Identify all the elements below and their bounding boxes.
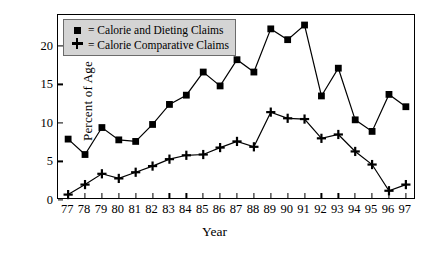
legend-item-calorie-dieting: = Calorie and Dieting Claims <box>69 22 229 37</box>
data-point-cross <box>148 161 157 170</box>
x-tick-label: 89 <box>264 202 277 217</box>
x-axis-title: Year <box>0 224 429 240</box>
plot-area: Percent of Age 05101520 = Calorie and Di… <box>57 14 415 199</box>
data-point-square <box>402 103 409 110</box>
x-tick-label: 79 <box>95 202 108 217</box>
y-tick-label: 10 <box>41 115 59 130</box>
chart-legend: = Calorie and Dieting Claims = Calorie C… <box>63 19 236 56</box>
data-point-cross <box>80 180 89 189</box>
data-point-square <box>149 121 156 128</box>
data-point-square <box>234 56 241 63</box>
data-point-square <box>82 151 89 158</box>
data-point-square <box>99 124 106 131</box>
clipped-caption <box>0 0 429 7</box>
y-tick-label: 20 <box>41 38 59 53</box>
legend-label: = Calorie Comparative Claims <box>85 39 229 51</box>
x-tick-label: 84 <box>179 202 192 217</box>
y-tick-label: 0 <box>47 193 58 208</box>
data-point-square <box>200 69 207 76</box>
data-point-square <box>369 128 376 135</box>
x-tick-label: 80 <box>112 202 125 217</box>
x-tick-label: 78 <box>78 202 91 217</box>
x-tick-label: 83 <box>162 202 175 217</box>
data-point-cross <box>249 142 258 151</box>
x-tick-label: 88 <box>247 202 260 217</box>
data-point-square <box>335 65 342 72</box>
data-point-square <box>386 91 393 98</box>
data-point-cross <box>114 174 123 183</box>
data-point-cross <box>97 169 106 178</box>
x-tick-label: 91 <box>297 202 310 217</box>
x-tick-label: 81 <box>128 202 141 217</box>
data-point-cross <box>64 190 73 199</box>
x-tick-label: 96 <box>382 202 395 217</box>
data-point-cross <box>384 186 393 195</box>
figure-canvas: Percent of Age 05101520 = Calorie and Di… <box>0 0 429 256</box>
legend-label: = Calorie and Dieting Claims <box>85 24 224 36</box>
filled-square-icon <box>69 24 85 36</box>
data-point-square <box>183 92 190 99</box>
data-point-cross <box>165 155 174 164</box>
legend-item-calorie-comparative: = Calorie Comparative Claims <box>69 37 229 52</box>
data-point-cross <box>131 168 140 177</box>
x-tick-label: 85 <box>196 202 209 217</box>
data-point-square <box>132 138 139 145</box>
data-point-cross <box>283 114 292 123</box>
x-tick-label: 90 <box>280 202 293 217</box>
data-point-square <box>115 136 122 143</box>
x-tick-label: 86 <box>213 202 226 217</box>
data-point-cross <box>232 137 241 146</box>
x-tick-label: 95 <box>365 202 378 217</box>
data-point-square <box>352 116 359 123</box>
data-point-square <box>284 36 291 43</box>
x-tick-label: 94 <box>348 202 361 217</box>
y-tick-label: 15 <box>41 77 59 92</box>
y-tick-label: 5 <box>47 154 58 169</box>
x-tick-label: 97 <box>399 202 412 217</box>
data-point-cross <box>266 108 275 117</box>
x-tick-label: 82 <box>145 202 158 217</box>
data-point-square <box>166 101 173 108</box>
x-tick-label: 87 <box>230 202 243 217</box>
data-point-cross <box>182 151 191 160</box>
plot-inner: Percent of Age 05101520 = Calorie and Di… <box>58 15 414 198</box>
data-point-square <box>217 83 224 90</box>
data-point-cross <box>216 143 225 152</box>
data-point-square <box>301 22 308 29</box>
data-point-cross <box>401 180 410 189</box>
data-point-square <box>250 69 257 76</box>
data-point-cross <box>199 150 208 159</box>
data-point-square <box>318 93 325 100</box>
data-point-square <box>65 136 72 143</box>
x-tick-label: 92 <box>314 202 327 217</box>
x-tick-label: 93 <box>331 202 344 217</box>
data-point-square <box>267 25 274 32</box>
x-tick-label: 77 <box>61 202 74 217</box>
plus-cross-icon <box>69 38 85 51</box>
